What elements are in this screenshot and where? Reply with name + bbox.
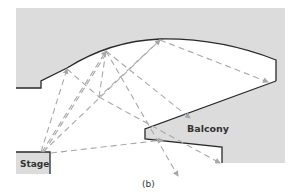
figure-caption: (b) [142,179,155,189]
auditorium-diagram: Balcony Stage (b) [0,0,296,192]
balcony-label: Balcony [187,123,230,134]
balcony-mass [145,81,285,163]
ceiling-mass [16,8,285,88]
stage-label: Stage [20,159,49,169]
